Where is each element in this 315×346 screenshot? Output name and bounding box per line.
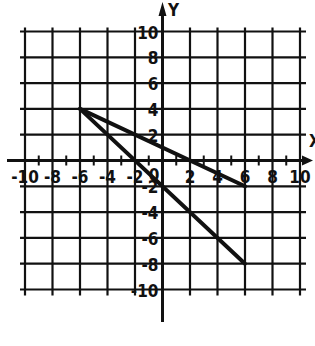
x-axis-label: X	[309, 131, 315, 151]
y-axis-arrow-icon	[159, 2, 167, 16]
y-tick-label: -8	[142, 255, 159, 275]
y-tick-label: -10	[131, 281, 159, 301]
y-tick-label: 4	[148, 100, 159, 120]
y-tick-label: -6	[142, 229, 159, 249]
x-tick-label: -8	[44, 167, 61, 187]
y-axis-label: Y	[167, 0, 180, 20]
x-tick-label: -6	[72, 167, 89, 187]
x-axis-arrow-icon	[302, 156, 313, 166]
x-tick-label: -4	[99, 167, 116, 187]
y-tick-label: 10	[137, 23, 158, 43]
x-tick-label: 2	[185, 167, 196, 187]
y-tick-label: 8	[148, 48, 159, 68]
coordinate-plane: -10-8-6-4-2246810108642-2-4-6-8-100 X Y	[0, 0, 315, 346]
x-tick-label: -10	[11, 167, 39, 187]
y-tick-label: -4	[142, 203, 159, 223]
x-tick-label: 10	[289, 167, 310, 187]
y-tick-label: 6	[148, 74, 159, 94]
x-tick-label: 8	[267, 167, 278, 187]
